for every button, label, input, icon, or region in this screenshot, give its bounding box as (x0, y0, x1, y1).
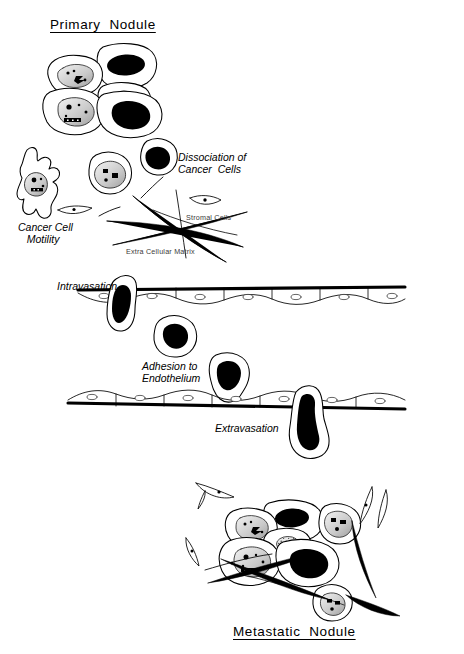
label-extracellular-matrix: Extra Cellular Matrix (126, 247, 195, 256)
label-cancer-cell-motility: Cancer Cell Motility (18, 222, 73, 245)
extravasating-cell (289, 386, 329, 459)
label-adhesion-to-endothelium: Adhesion to Endothelium (142, 361, 200, 384)
label-dissociation: Dissociation of Cancer Cells (178, 152, 246, 175)
label-intravasation: Intravasation (57, 281, 117, 293)
label-stromal-cells: Stromal Cells (186, 213, 231, 222)
figure-canvas: Primary Nodule Dissociation of Cancer Ce… (0, 0, 464, 654)
stromal-spindle-cells (58, 196, 221, 214)
adhering-cell (209, 353, 249, 402)
page-title-metastatic-nodule: Metastatic Nodule (233, 624, 356, 639)
primary-nodule-cluster (43, 44, 162, 138)
dissociating-cells (17, 139, 177, 219)
page-title-primary-nodule: Primary Nodule (50, 17, 156, 32)
metastasis-diagram (0, 0, 464, 654)
circulating-cell-1 (154, 316, 197, 357)
label-extravasation: Extravasation (215, 423, 279, 435)
